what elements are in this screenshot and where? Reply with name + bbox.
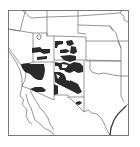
range-map: Distribution range map — Southwestern Un… xyxy=(0,0,140,147)
map-svg xyxy=(0,0,140,147)
